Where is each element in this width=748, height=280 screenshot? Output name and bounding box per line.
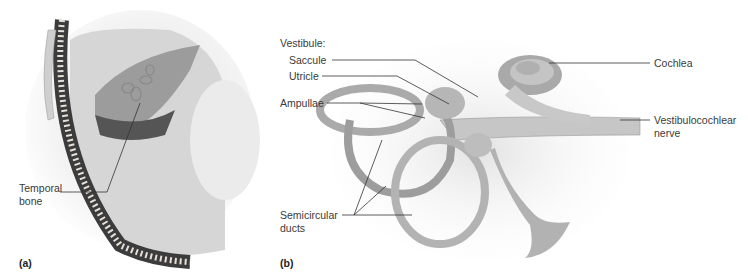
- label-temporal-bone: Temporal bone: [19, 182, 62, 208]
- label-vestibule-heading: Vestibule:: [280, 37, 326, 50]
- label-vestibulocochlear-nerve: Vestibulocochlear nerve: [654, 114, 736, 140]
- label-saccule: Saccule: [289, 54, 326, 67]
- label-semicircular-ducts: Semicircular ducts: [280, 209, 338, 235]
- illustration: [0, 0, 748, 280]
- label-temporal-bone-line1: Temporal: [19, 182, 62, 194]
- panel-a-label: (a): [19, 257, 32, 269]
- label-nerve-line1: Vestibulocochlear: [654, 114, 736, 126]
- label-utricle: Utricle: [289, 70, 319, 83]
- skull-cross-section: [25, 10, 260, 262]
- membranous-labyrinth: [320, 40, 640, 260]
- label-semicircular-line1: Semicircular: [280, 209, 338, 221]
- panel-b-label: (b): [280, 257, 293, 269]
- label-cochlea: Cochlea: [654, 57, 693, 70]
- label-ampullae: Ampullae: [280, 97, 324, 110]
- label-temporal-bone-line2: bone: [19, 195, 42, 207]
- label-semicircular-line2: ducts: [280, 222, 305, 234]
- label-nerve-line2: nerve: [654, 127, 680, 139]
